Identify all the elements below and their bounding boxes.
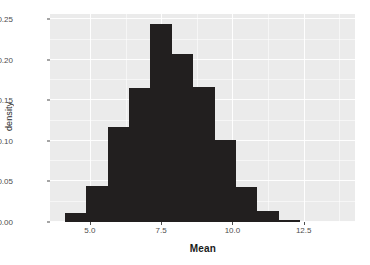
gridline-x-minor [268, 14, 269, 222]
y-tick-mark [47, 59, 50, 60]
histogram-chart: density 0.000.050.100.150.200.255.07.510… [0, 0, 370, 265]
x-tick-label: 12.5 [296, 226, 312, 235]
y-tick-label: 0.15 [0, 96, 13, 105]
gridline-y-minor [50, 39, 355, 40]
y-tick-mark [47, 100, 50, 101]
histogram-bar [215, 140, 236, 222]
x-axis-title: Mean [50, 243, 356, 254]
histogram-bar [193, 87, 214, 222]
y-tick-mark [47, 181, 50, 182]
x-tick-mark [232, 222, 233, 225]
y-tick-label: 0.20 [0, 55, 13, 64]
y-axis-title: density [2, 0, 16, 232]
y-tick-mark [47, 140, 50, 141]
y-tick-label: 0.00 [0, 218, 13, 227]
histogram-bar [65, 213, 86, 222]
gridline-y-minor [50, 79, 355, 80]
histogram-bar [279, 220, 300, 222]
x-tick-mark [304, 222, 305, 225]
gridline-y-major [50, 59, 355, 60]
histogram-bar [257, 211, 278, 222]
y-tick-label: 0.25 [0, 15, 13, 24]
histogram-bar [236, 187, 257, 222]
histogram-bar [150, 24, 171, 222]
x-tick-label: 7.5 [156, 226, 167, 235]
histogram-bar [172, 54, 193, 222]
y-tick-mark [47, 19, 50, 20]
histogram-bar [129, 88, 150, 222]
histogram-bar [86, 186, 107, 222]
histogram-bar [108, 127, 129, 222]
gridline-x-minor [339, 14, 340, 222]
x-tick-label: 5.0 [84, 226, 95, 235]
y-tick-mark [47, 222, 50, 223]
y-tick-label: 0.10 [0, 136, 13, 145]
gridline-x-major [304, 14, 305, 222]
x-tick-mark [161, 222, 162, 225]
plot-panel [50, 14, 355, 222]
gridline-y-major [50, 18, 355, 19]
x-tick-mark [90, 222, 91, 225]
y-tick-label: 0.05 [0, 177, 13, 186]
x-tick-label: 10.0 [225, 226, 241, 235]
